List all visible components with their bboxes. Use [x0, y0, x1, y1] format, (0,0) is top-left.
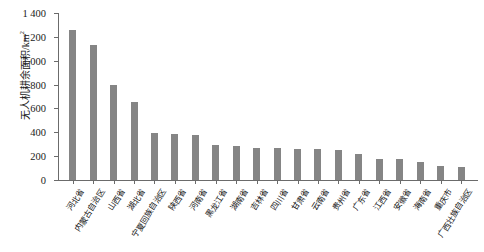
- y-axis-line: [58, 13, 59, 180]
- x-axis-label: 贵州省: [329, 186, 352, 213]
- y-tick-label: 600: [30, 103, 46, 114]
- y-tick: [54, 132, 58, 133]
- bar: [396, 159, 403, 180]
- bar: [90, 45, 97, 180]
- x-axis-label: 江西省: [370, 186, 393, 213]
- bar: [417, 162, 424, 180]
- x-axis-label: 海南省: [410, 186, 433, 213]
- bar: [131, 102, 138, 180]
- y-tick: [54, 13, 58, 14]
- bar: [212, 145, 219, 180]
- y-tick: [54, 156, 58, 157]
- bar: [294, 149, 301, 180]
- bar: [335, 150, 342, 180]
- x-axis-line: [58, 180, 478, 181]
- y-tick: [54, 108, 58, 109]
- x-axis-label: 甘肃省: [288, 186, 311, 213]
- bar: [110, 85, 117, 180]
- x-axis-label: 吉林省: [247, 186, 270, 213]
- y-tick-label: 400: [30, 127, 46, 138]
- x-axis-label: 云南省: [308, 186, 331, 213]
- x-axis-label: 山西省: [104, 186, 127, 213]
- bar: [151, 133, 158, 180]
- bar: [355, 154, 362, 180]
- y-tick: [54, 85, 58, 86]
- y-tick-label: 200: [30, 151, 46, 162]
- x-axis-label: 广东省: [349, 186, 372, 213]
- y-tick: [54, 61, 58, 62]
- y-tick-label: 1 400: [22, 8, 46, 19]
- x-axis-label: 四川省: [267, 186, 290, 213]
- bar: [458, 167, 465, 180]
- plot-area: 02004006008001 0001 2001 400: [58, 13, 478, 180]
- y-tick-label: 1 000: [22, 55, 46, 66]
- y-axis-title: 无人机耕余面积/km2: [17, 6, 32, 146]
- x-axis-label: 安徽省: [390, 186, 413, 213]
- bar: [314, 149, 321, 180]
- bar: [274, 148, 281, 180]
- y-tick: [54, 37, 58, 38]
- y-tick: [54, 180, 58, 181]
- y-tick-label: 1 200: [22, 31, 46, 42]
- y-axis-title-text: 无人机耕余面积/km2: [20, 31, 31, 120]
- x-axis-labels: 河北省内蒙古自治区山西省湖北省宁夏回族自治区陕西省河南省黑龙江省湖南省吉林省四川…: [58, 184, 478, 252]
- bar: [171, 134, 178, 180]
- bar: [69, 30, 76, 180]
- y-tick-label: 800: [30, 79, 46, 90]
- bar: [192, 135, 199, 180]
- y-tick-label: 0: [41, 175, 46, 186]
- x-axis-label: 湖南省: [227, 186, 250, 213]
- x-axis-label: 陕西省: [165, 186, 188, 213]
- bar: [376, 159, 383, 180]
- bar: [233, 146, 240, 180]
- bar: [253, 148, 260, 180]
- bar-chart: 无人机耕余面积/km2 02004006008001 0001 2001 400…: [0, 0, 484, 252]
- bar: [437, 166, 444, 180]
